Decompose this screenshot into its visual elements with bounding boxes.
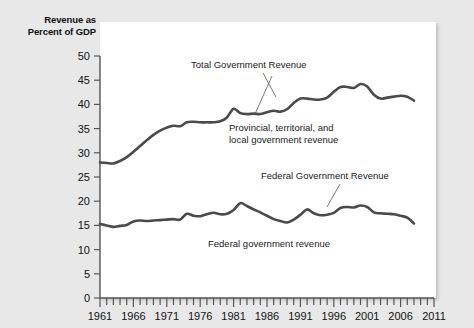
chart-figure: Revenue as Percent of GDP 05101520253035… <box>0 0 474 328</box>
chart-svg: 05101520253035404550 1961196619711976198… <box>0 0 474 328</box>
y-tick-label-0: 0 <box>84 292 90 304</box>
x-tick-label-1966: 1966 <box>121 310 145 322</box>
leader-total-revenue <box>263 73 276 97</box>
leader-provincial-revenue <box>255 76 272 114</box>
x-tick-label-1996: 1996 <box>322 310 346 322</box>
y-tick-label-20: 20 <box>78 195 90 207</box>
annotation-0: Total Government Revenue <box>191 59 307 70</box>
x-ticks: 1961196619711976198119861991199620012006… <box>88 298 446 322</box>
y-tick-label-5: 5 <box>84 268 90 280</box>
y-axis: 05101520253035404550 <box>78 50 100 304</box>
line-federal-government-revenue <box>100 203 414 227</box>
y-tick-label-15: 15 <box>78 219 90 231</box>
x-axis: 1961196619711976198119861991199620012006… <box>88 298 446 322</box>
x-tick-label-1986: 1986 <box>255 310 279 322</box>
leader-federal-revenue <box>327 184 340 207</box>
series-federal-government-revenue <box>100 203 414 227</box>
x-tick-label-1961: 1961 <box>88 310 112 322</box>
y-tick-label-50: 50 <box>78 50 90 62</box>
annotation-2: local government revenue <box>229 134 338 145</box>
x-tick-label-2011: 2011 <box>422 310 446 322</box>
y-tick-label-25: 25 <box>78 171 90 183</box>
x-tick-label-1971: 1971 <box>155 310 179 322</box>
x-tick-label-2006: 2006 <box>388 310 412 322</box>
y-tick-label-10: 10 <box>78 244 90 256</box>
y-tick-label-40: 40 <box>78 98 90 110</box>
annotation-3: Federal Government Revenue <box>261 170 389 181</box>
y-tick-label-30: 30 <box>78 147 90 159</box>
y-tick-label-35: 35 <box>78 123 90 135</box>
x-tick-label-2001: 2001 <box>355 310 379 322</box>
y-tick-label-45: 45 <box>78 74 90 86</box>
x-tick-label-1976: 1976 <box>188 310 212 322</box>
x-tick-label-1981: 1981 <box>221 310 245 322</box>
annotation-4: Federal government revenue <box>208 238 330 249</box>
y-ticks: 05101520253035404550 <box>78 50 100 304</box>
annotation-1: Provincial, territorial, and <box>229 122 334 133</box>
x-tick-label-1991: 1991 <box>288 310 312 322</box>
